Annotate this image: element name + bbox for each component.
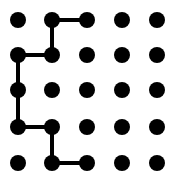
grid-dot <box>114 47 130 63</box>
grid-dot <box>149 82 165 98</box>
dot-grid-diagram <box>0 0 174 185</box>
grid-dot <box>79 155 95 171</box>
grid-dot <box>114 155 130 171</box>
grid-dot <box>10 119 26 135</box>
grid-dot <box>10 47 26 63</box>
grid-dot <box>114 12 130 28</box>
grid-dot <box>44 12 60 28</box>
grid-dot <box>149 155 165 171</box>
grid-dot <box>44 155 60 171</box>
grid-dot <box>114 119 130 135</box>
dot-grid <box>10 12 165 171</box>
grid-dot <box>10 82 26 98</box>
grid-dot <box>149 47 165 63</box>
grid-dot <box>44 119 60 135</box>
grid-dot <box>44 82 60 98</box>
grid-dot <box>79 82 95 98</box>
grid-dot <box>79 47 95 63</box>
grid-dot <box>114 82 130 98</box>
grid-dot <box>44 47 60 63</box>
grid-dot <box>79 119 95 135</box>
grid-dot <box>10 155 26 171</box>
grid-dot <box>149 12 165 28</box>
grid-dot <box>149 119 165 135</box>
grid-dot <box>10 12 26 28</box>
grid-dot <box>79 12 95 28</box>
